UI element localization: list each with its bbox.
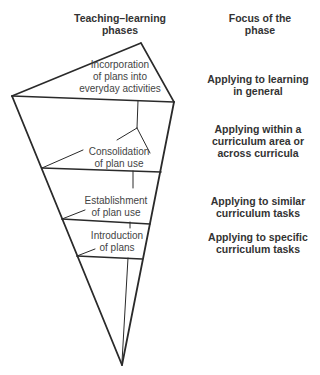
- phase-label-establishment: Establishment of plan use: [82, 195, 150, 219]
- focus-specific-tasks: Applying to specific curriculum tasks: [196, 231, 320, 255]
- phase-label-introduction: Introduction of plans: [86, 230, 148, 254]
- divider-1: [12, 96, 174, 102]
- axis-segment-1: [137, 101, 138, 128]
- focus-curriculum-area: Applying within a curriculum area or acr…: [196, 123, 320, 159]
- divider-3: [62, 219, 150, 224]
- inverted-cone-diagram: [0, 0, 320, 375]
- phase-label-consolidation: Consolidation of plan use: [84, 146, 154, 170]
- left-column-header: Teaching–learning phases: [60, 12, 180, 36]
- divider-4: [77, 256, 142, 259]
- focus-learning-in-general: Applying to learning in general: [196, 73, 320, 97]
- focus-similar-tasks: Applying to similar curriculum tasks: [196, 195, 320, 219]
- phase-label-incorporation: Incorporation of plans into everyday act…: [70, 59, 170, 95]
- right-column-header: Focus of the phase: [210, 12, 310, 36]
